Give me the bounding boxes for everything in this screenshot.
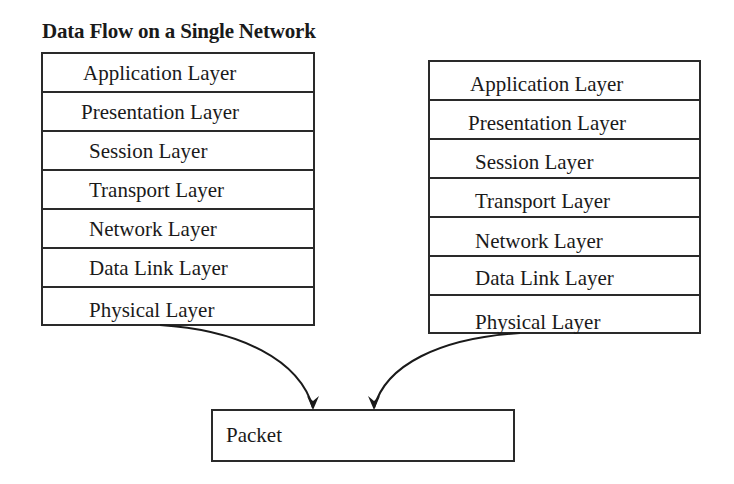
arrowhead-left-icon	[307, 396, 319, 410]
flow-arrows	[0, 0, 734, 484]
arrow-left-to-packet	[160, 325, 313, 408]
arrow-right-to-packet	[374, 333, 520, 408]
arrowhead-right-icon	[368, 396, 380, 410]
